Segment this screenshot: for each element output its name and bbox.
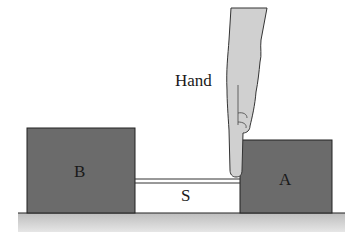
label-hand: Hand [175, 72, 212, 89]
floor [18, 213, 345, 232]
string-s [135, 179, 240, 183]
label-string-s: S [181, 187, 190, 204]
label-block-a: A [279, 171, 291, 188]
label-block-b: B [74, 163, 85, 180]
